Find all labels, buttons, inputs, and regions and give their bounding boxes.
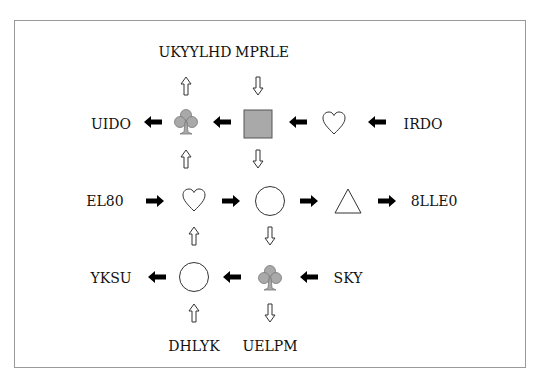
hollow-arrow-down-icon (264, 226, 276, 246)
solid-arrow-left-icon (144, 116, 162, 128)
solid-arrow-right-icon (222, 195, 240, 207)
hollow-arrow-down-icon (264, 303, 276, 323)
solid-arrow-left-icon (368, 116, 386, 128)
label-row3-left: YKSU (90, 270, 131, 286)
hollow-arrow-up-icon (180, 76, 192, 96)
hollow-arrow-up-icon (180, 149, 192, 169)
circle-icon (254, 185, 286, 217)
label-row3-right: SKY (334, 270, 363, 286)
label-row2-right: 8LLE0 (411, 193, 458, 209)
hollow-arrow-up-icon (188, 226, 200, 246)
solid-arrow-left-icon (223, 271, 241, 283)
hollow-arrow-up-icon (188, 303, 200, 323)
solid-arrow-left-icon (289, 116, 307, 128)
label-row2-left: EL80 (86, 193, 123, 209)
solid-arrow-left-icon (213, 116, 231, 128)
triangle-icon (333, 187, 363, 215)
circle-icon (178, 261, 210, 293)
label-top-left: UKYYLHD (158, 44, 231, 60)
heart-icon (321, 110, 347, 136)
solid-arrow-right-icon (146, 195, 164, 207)
square-icon (243, 109, 273, 139)
label-row1-left: UIDO (91, 116, 131, 132)
solid-arrow-right-icon (378, 195, 396, 207)
club-icon (174, 108, 198, 136)
solid-arrow-left-icon (148, 271, 166, 283)
label-bottom-right: UELPM (242, 338, 297, 354)
solid-arrow-left-icon (300, 271, 318, 283)
label-bottom-left: DHLYK (168, 338, 220, 354)
hollow-arrow-down-icon (252, 76, 264, 96)
hollow-arrow-down-icon (252, 149, 264, 169)
solid-arrow-right-icon (300, 195, 318, 207)
label-top-right: MPRLE (235, 44, 289, 60)
heart-icon (181, 187, 207, 213)
label-row1-right: IRDO (404, 116, 443, 132)
club-icon (258, 264, 282, 292)
